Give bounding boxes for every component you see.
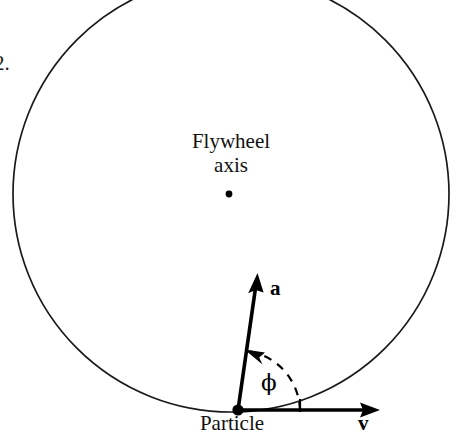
flywheel-axis-label-line2: axis	[192, 154, 270, 178]
flywheel-axis-label: Flywheel axis	[192, 130, 270, 177]
diagram-canvas	[0, 0, 457, 437]
acceleration-vector-label: a	[270, 277, 281, 301]
angle-arc-arrowhead	[245, 350, 266, 365]
flywheel-rim-circle	[13, 0, 449, 412]
flywheel-axis-dot	[226, 191, 233, 198]
velocity-vector-label: v	[358, 412, 369, 436]
item-number-label: 2.	[0, 52, 10, 76]
flywheel-diagram: 2. Flywheel axis Particle a v ϕ	[0, 0, 457, 437]
particle-label: Particle	[200, 412, 264, 436]
angle-phi-label: ϕ	[261, 370, 277, 396]
flywheel-axis-label-line1: Flywheel	[192, 129, 270, 153]
acceleration-vector-shaft	[238, 288, 256, 410]
